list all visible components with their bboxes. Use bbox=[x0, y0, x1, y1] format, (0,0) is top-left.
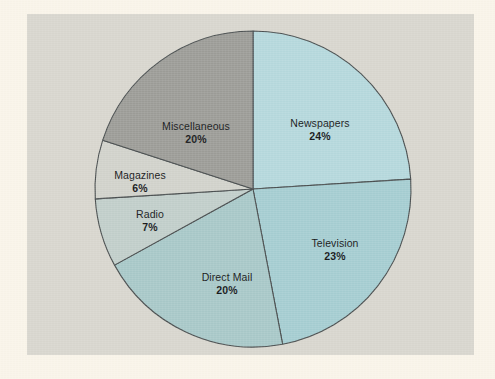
pie-label-value: 7% bbox=[136, 221, 164, 234]
pie-label-value: 20% bbox=[202, 284, 253, 297]
pie-label-radio: Radio7% bbox=[136, 208, 164, 235]
pie-label-name: Direct Mail bbox=[202, 271, 253, 284]
pie-label-miscellaneous: Miscellaneous20% bbox=[162, 120, 230, 147]
pie-label-television: Television23% bbox=[311, 237, 358, 264]
pie-label-magazines: Magazines6% bbox=[114, 169, 166, 196]
pie-label-name: Miscellaneous bbox=[162, 120, 230, 133]
pie-label-name: Television bbox=[311, 237, 358, 250]
pie-label-value: 24% bbox=[290, 130, 349, 143]
figure-root: Newspapers24%Television23%Direct Mail20%… bbox=[0, 0, 495, 379]
pie-label-direct-mail: Direct Mail20% bbox=[202, 271, 253, 298]
pie-label-name: Magazines bbox=[114, 169, 166, 182]
pie-chart bbox=[0, 0, 495, 379]
pie-label-value: 6% bbox=[114, 182, 166, 195]
pie-label-value: 23% bbox=[311, 250, 358, 263]
pie-slice-newspapers[interactable] bbox=[253, 31, 411, 189]
pie-label-newspapers: Newspapers24% bbox=[290, 117, 349, 144]
pie-label-name: Newspapers bbox=[290, 117, 349, 130]
pie-label-value: 20% bbox=[162, 133, 230, 146]
pie-label-name: Radio bbox=[136, 208, 164, 221]
